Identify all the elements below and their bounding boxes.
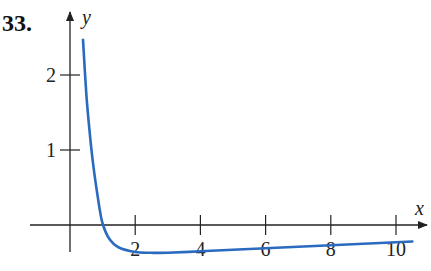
data-curve — [83, 40, 412, 253]
x-tick-label: 4 — [195, 238, 205, 260]
y-tick-label: 2 — [46, 64, 56, 86]
x-tick-label: 2 — [130, 238, 140, 260]
ticks: 24681012 — [46, 64, 406, 260]
y-axis-label: y — [80, 6, 91, 29]
chart: xy 24681012 — [0, 0, 431, 271]
y-tick-label: 1 — [46, 139, 56, 161]
x-axis-label: x — [414, 197, 424, 219]
x-tick-label: 8 — [326, 238, 336, 260]
